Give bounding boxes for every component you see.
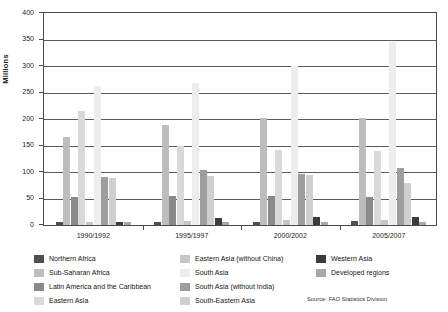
bar-group <box>241 13 340 225</box>
legend-item[interactable]: Sub-Saharan Africa <box>34 266 151 280</box>
y-axis-tick-label: 100 <box>0 168 34 175</box>
bar <box>268 196 275 225</box>
legend-label: Northern Africa <box>49 255 96 263</box>
bar <box>275 150 282 225</box>
bar <box>404 183 411 225</box>
bar <box>56 222 63 225</box>
legend-swatch-icon <box>180 297 190 305</box>
legend-label: Eastern Asia (without China) <box>195 255 283 263</box>
legend-item[interactable]: Eastern Asia <box>34 294 151 308</box>
bar <box>192 83 199 225</box>
bar <box>184 221 191 225</box>
bar <box>78 111 85 225</box>
bar <box>298 174 305 225</box>
legend-item[interactable]: Latin America and the Caribbean <box>34 280 151 294</box>
bar <box>381 220 388 225</box>
legend-swatch-icon <box>34 283 44 291</box>
legend-swatch-icon <box>316 255 326 263</box>
source-note: Source: FAO Statistics Division <box>307 296 387 302</box>
y-axis-tick-label: 300 <box>0 62 34 69</box>
bar <box>291 66 298 225</box>
y-axis-tick-label: 400 <box>0 9 34 16</box>
x-axis-tick-label: 2005/2007 <box>349 232 429 239</box>
bar <box>374 151 381 225</box>
legend-column: Western AsiaDeveloped regions <box>316 252 389 280</box>
y-axis-tick-label: 50 <box>0 194 34 201</box>
legend-item[interactable]: Northern Africa <box>34 252 151 266</box>
bar <box>124 222 131 225</box>
legend-swatch-icon <box>316 269 326 277</box>
legend-label: South-Eastern Asia <box>195 297 255 305</box>
y-axis-tick-label: 150 <box>0 141 34 148</box>
bar <box>109 178 116 225</box>
bar <box>260 118 267 225</box>
y-axis-tick-label: 200 <box>0 115 34 122</box>
bar <box>63 137 70 225</box>
bar <box>412 217 419 225</box>
bar-group <box>143 13 242 225</box>
x-axis-tick-mark <box>143 226 144 230</box>
legend-column: Eastern Asia (without China)South AsiaSo… <box>180 252 283 308</box>
bar <box>389 42 396 225</box>
y-axis-tick-label: 0 <box>0 221 34 228</box>
legend-item[interactable]: South-Eastern Asia <box>180 294 283 308</box>
y-axis-tick-label: 350 <box>0 35 34 42</box>
bar <box>71 197 78 225</box>
bar <box>351 221 358 225</box>
legend-swatch-icon <box>34 255 44 263</box>
chart-root: Millions 400350300250200150100500 1990/1… <box>0 0 448 312</box>
legend-label: South Asia <box>195 269 228 277</box>
bar <box>253 222 260 225</box>
y-axis-tick-label: 250 <box>0 88 34 95</box>
bar <box>419 222 426 225</box>
legend-column: Northern AfricaSub-Saharan AfricaLatin A… <box>34 252 151 308</box>
plot-area <box>43 12 437 226</box>
legend-label: South Asia (without India) <box>195 283 274 291</box>
bar-group <box>44 13 143 225</box>
legend-label: Latin America and the Caribbean <box>49 283 151 291</box>
legend-label: Sub-Saharan Africa <box>49 269 110 277</box>
legend-swatch-icon <box>34 269 44 277</box>
x-axis-tick-label: 1990/1992 <box>53 232 133 239</box>
bar <box>94 86 101 225</box>
bar <box>215 218 222 225</box>
bar <box>359 118 366 225</box>
bar <box>200 170 207 225</box>
legend-label: Western Asia <box>331 255 372 263</box>
bar <box>116 222 123 225</box>
x-axis-tick-label: 2000/2002 <box>250 232 330 239</box>
legend-label: Developed regions <box>331 269 389 277</box>
bar <box>177 146 184 226</box>
bar <box>313 217 320 225</box>
x-axis-tick-mark <box>241 226 242 230</box>
bar <box>154 222 161 225</box>
bar <box>306 175 313 225</box>
legend-item[interactable]: Western Asia <box>316 252 389 266</box>
legend-swatch-icon <box>180 255 190 263</box>
legend-label: Eastern Asia <box>49 297 88 305</box>
bar <box>101 177 108 225</box>
x-axis-tick-mark <box>340 226 341 230</box>
legend-item[interactable]: South Asia (without India) <box>180 280 283 294</box>
bar <box>86 222 93 225</box>
bar <box>162 125 169 225</box>
legend-item[interactable]: Developed regions <box>316 266 389 280</box>
bar <box>207 176 214 225</box>
legend-swatch-icon <box>180 283 190 291</box>
bar <box>222 222 229 225</box>
legend-swatch-icon <box>180 269 190 277</box>
bar <box>321 222 328 225</box>
bar-group <box>340 13 439 225</box>
bar <box>397 168 404 225</box>
bar <box>283 220 290 225</box>
legend-item[interactable]: Eastern Asia (without China) <box>180 252 283 266</box>
legend-swatch-icon <box>34 297 44 305</box>
x-axis-tick-label: 1995/1997 <box>152 232 232 239</box>
bar <box>169 196 176 225</box>
bar <box>366 197 373 225</box>
legend-item[interactable]: South Asia <box>180 266 283 280</box>
